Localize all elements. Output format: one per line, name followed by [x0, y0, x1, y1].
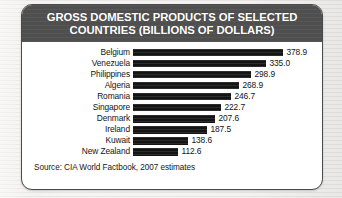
- bar-value-label: 207.6: [215, 114, 239, 123]
- bar-ireland: [133, 126, 207, 133]
- bar-value-label: 298.9: [251, 70, 275, 79]
- bar-track: 222.7: [133, 102, 322, 113]
- bar-kuwait: [133, 137, 188, 144]
- bar-track: 378.9: [133, 47, 322, 58]
- bar-value-label: 222.7: [221, 103, 245, 112]
- bar-singapore: [133, 104, 221, 111]
- table-row: Algeria 268.9: [22, 80, 322, 91]
- bar-track: 207.6: [133, 113, 322, 124]
- table-row: Belgium 378.9: [22, 47, 322, 58]
- table-row: Kuwait 138.6: [22, 135, 322, 146]
- bar-track: 246.7: [133, 91, 322, 102]
- bar-category-label: Algeria: [22, 81, 133, 90]
- table-row: Singapore 222.7: [22, 102, 322, 113]
- page-title: GROSS DOMESTIC PRODUCTS OF SELECTED COUN…: [30, 11, 314, 36]
- bar-category-label: Singapore: [22, 103, 133, 112]
- bar-value-label: 138.6: [188, 136, 212, 145]
- bar-chart-plot-area: Belgium 378.9 Venezuela 335.0 Philippine…: [22, 42, 322, 172]
- bar-category-label: Denmark: [22, 114, 133, 123]
- bar-new-zealand: [133, 148, 178, 155]
- bar-algeria: [133, 82, 239, 89]
- bar-category-label: New Zealand: [22, 147, 133, 156]
- bar-track: 187.5: [133, 124, 322, 135]
- table-row: Romania 246.7: [22, 91, 322, 102]
- bar-belgium: [133, 49, 283, 56]
- bar-denmark: [133, 115, 215, 122]
- bar-category-label: Kuwait: [22, 136, 133, 145]
- bar-track: 112.6: [133, 146, 322, 157]
- bar-philippines: [133, 71, 251, 78]
- bar-track: 298.9: [133, 69, 322, 80]
- bar-value-label: 246.7: [231, 92, 255, 101]
- bar-value-label: 112.6: [178, 147, 201, 156]
- bar-value-label: 335.0: [266, 59, 290, 68]
- bar-track: 335.0: [133, 58, 322, 69]
- bar-category-label: Belgium: [22, 48, 133, 57]
- bar-category-label: Philippines: [22, 70, 133, 79]
- table-row: Philippines 298.9: [22, 69, 322, 80]
- table-row: Venezuela 335.0: [22, 58, 322, 69]
- bar-category-label: Venezuela: [22, 59, 133, 68]
- table-row: New Zealand 112.6: [22, 146, 322, 157]
- bar-category-label: Romania: [22, 92, 133, 101]
- bar-venezuela: [133, 60, 266, 67]
- bar-value-label: 378.9: [283, 48, 307, 57]
- chart-source-note: Source: CIA World Factbook, 2007 estimat…: [22, 163, 322, 172]
- bar-category-label: Ireland: [22, 125, 133, 134]
- chart-title-band: GROSS DOMESTIC PRODUCTS OF SELECTED COUN…: [22, 5, 322, 42]
- table-row: Denmark 207.6: [22, 113, 322, 124]
- bar-value-label: 187.5: [207, 125, 231, 134]
- bar-value-label: 268.9: [239, 81, 263, 90]
- bar-romania: [133, 93, 231, 100]
- table-row: Ireland 187.5: [22, 124, 322, 135]
- bar-track: 268.9: [133, 80, 322, 91]
- gdp-chart-card: GROSS DOMESTIC PRODUCTS OF SELECTED COUN…: [21, 4, 323, 190]
- bar-track: 138.6: [133, 135, 322, 146]
